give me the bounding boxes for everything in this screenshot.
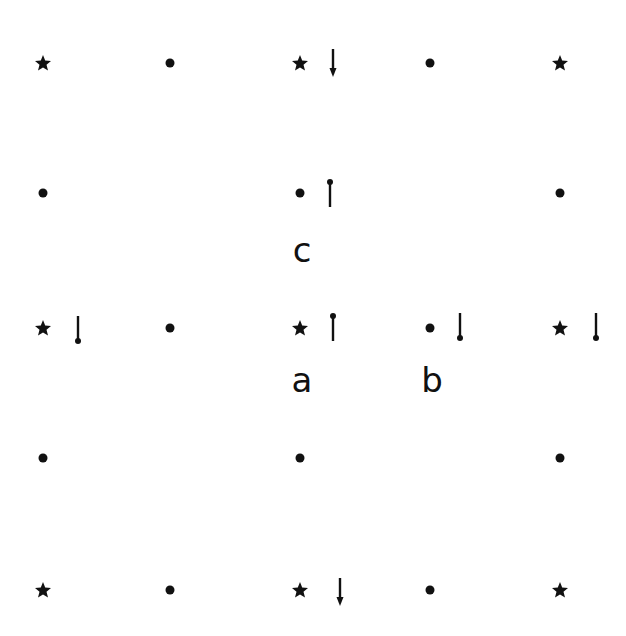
star-site-icon	[551, 581, 569, 599]
spin-down-marker-icon	[455, 311, 465, 343]
lattice-diagram	[0, 0, 626, 636]
dot-site-icon	[166, 586, 175, 595]
star-site-icon	[34, 581, 52, 599]
star-site-icon	[551, 319, 569, 337]
dot-site-icon	[296, 189, 305, 198]
dot-site-icon	[166, 59, 175, 68]
down-arrow-icon	[328, 47, 338, 79]
dot-site-icon	[556, 454, 565, 463]
label-b: b	[421, 363, 443, 397]
spin-down-marker-icon	[591, 311, 601, 343]
dot-site-icon	[39, 454, 48, 463]
dot-site-icon	[426, 586, 435, 595]
spin-up-marker-icon	[325, 177, 335, 209]
star-site-icon	[291, 54, 309, 72]
spin-down-marker-icon	[73, 314, 83, 346]
dot-site-icon	[296, 454, 305, 463]
star-site-icon	[34, 319, 52, 337]
dot-site-icon	[426, 324, 435, 333]
star-site-icon	[291, 319, 309, 337]
dot-site-icon	[426, 59, 435, 68]
star-site-icon	[551, 54, 569, 72]
star-site-icon	[291, 581, 309, 599]
spin-up-marker-icon	[328, 311, 338, 343]
down-arrow-icon	[335, 576, 345, 608]
label-c: c	[293, 233, 312, 267]
star-site-icon	[34, 54, 52, 72]
dot-site-icon	[166, 324, 175, 333]
dot-site-icon	[556, 189, 565, 198]
dot-site-icon	[39, 189, 48, 198]
label-a: a	[292, 363, 313, 397]
